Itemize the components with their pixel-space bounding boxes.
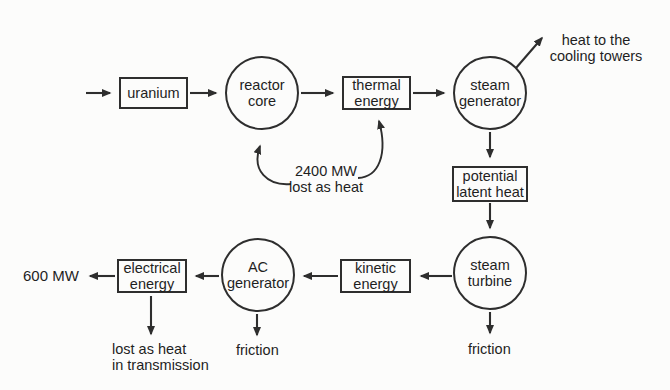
node-ac-generator-label: AC generator [227, 259, 289, 291]
annotation-600mw-output: 600 MW [23, 268, 79, 284]
node-steam-generator: steam generator [453, 56, 527, 130]
node-thermal-energy: thermal energy [342, 76, 411, 110]
node-kinetic-energy-label: kinetic energy [353, 260, 397, 292]
node-thermal-energy-label: thermal energy [352, 77, 400, 109]
annotation-lost-in-transmission: lost as heat in transmission [112, 341, 209, 373]
annotation-2400mw-lost-as-heat: 2400 MW lost as heat [276, 163, 376, 195]
annotation-friction-steam-turbine: friction [468, 341, 511, 357]
annotation-friction-ac-generator: friction [236, 342, 279, 358]
energy-flow-diagram: uranium reactor core thermal energy stea… [0, 0, 670, 390]
node-potential-latent-heat-label: potential latent heat [456, 168, 524, 200]
node-potential-latent-heat: potential latent heat [452, 166, 528, 202]
node-uranium-label: uranium [127, 85, 179, 101]
arrow-steam-generator-to-cooling-towers [516, 38, 542, 68]
node-steam-turbine-label: steam turbine [468, 257, 512, 289]
annotation-heat-to-cooling-towers: heat to the cooling towers [541, 32, 651, 64]
node-uranium: uranium [119, 77, 188, 109]
node-reactor-core-label: reactor core [239, 77, 284, 109]
node-electrical-energy-label: electrical energy [123, 260, 180, 292]
node-kinetic-energy: kinetic energy [340, 259, 411, 293]
node-electrical-energy: electrical energy [117, 259, 187, 293]
node-steam-turbine: steam turbine [453, 236, 527, 310]
node-reactor-core: reactor core [225, 56, 299, 130]
node-steam-generator-label: steam generator [459, 77, 521, 109]
node-ac-generator: AC generator [221, 238, 295, 312]
